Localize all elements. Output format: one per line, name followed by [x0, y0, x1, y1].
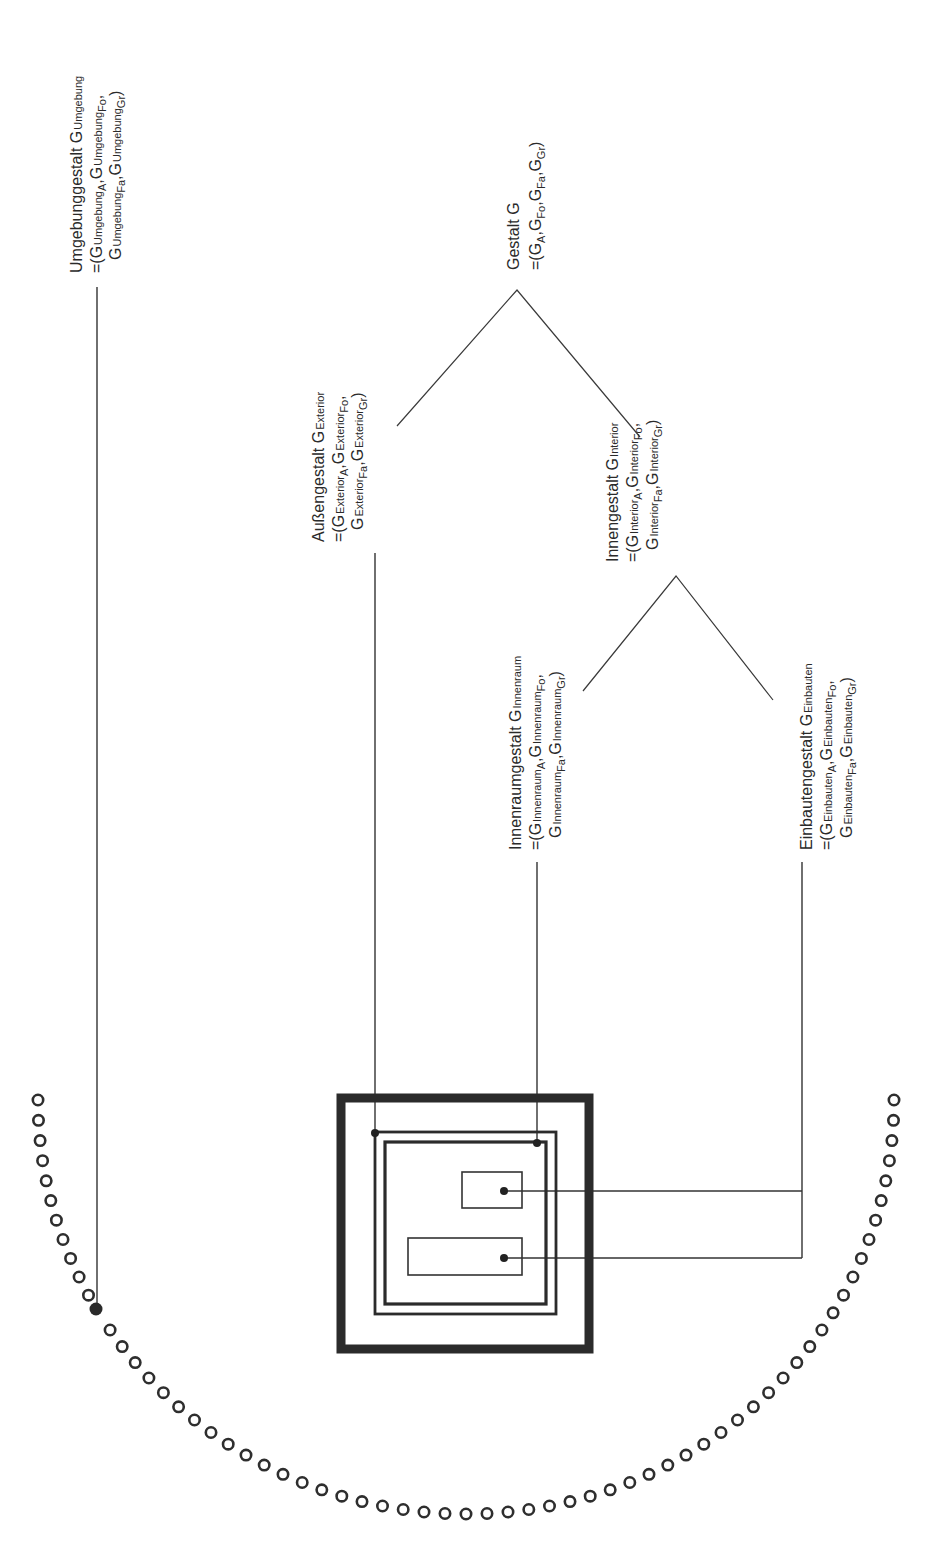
- exterior-title: Außengestalt GExterior: [310, 392, 327, 542]
- environment-ring-circle: [663, 1460, 673, 1470]
- interior-label: Innengestalt GInterior =(GInteriorA,GInt…: [604, 420, 664, 562]
- interior-formula-line2: GInteriorFa,GInteriorGr): [644, 420, 664, 550]
- environment-ring-circle: [884, 1156, 894, 1166]
- environment-ring-circle: [173, 1402, 183, 1412]
- einbauten-title: Einbautengestalt GEinbauten: [798, 663, 815, 850]
- gestalt-hierarchy-diagram: Umgebunggestalt GUmgebung =(GUmgebungA,G…: [0, 0, 932, 1562]
- environment-ring-circle: [144, 1373, 154, 1383]
- einbauten-formula-line1: =(GEinbautenA,GEinbautenFo,: [818, 680, 838, 850]
- einbauten-lower-anchor-dot: [500, 1254, 508, 1262]
- environment-ring-circle: [605, 1485, 615, 1495]
- umgebung-anchor-dot: [90, 1303, 103, 1316]
- environment-ring-circle: [74, 1272, 84, 1282]
- exterior-formula-line2: GExteriorFa,GExteriorGr): [349, 392, 369, 530]
- innenraum-boundary: [385, 1142, 546, 1304]
- environment-ring-circle: [419, 1507, 429, 1517]
- innenraum-anchor-dot: [533, 1139, 541, 1147]
- umgebung-formula-line1: =(GUmgebungA,GUmgebungFo,: [88, 95, 108, 273]
- innenraum-formula-line2: GInnenraumFa,GInnenraumGr): [547, 671, 567, 838]
- environment-ring-circle: [817, 1325, 827, 1335]
- interior-branch-lines: [583, 576, 773, 700]
- environment-ring-circle: [716, 1427, 726, 1437]
- environment-ring-circle: [699, 1439, 709, 1449]
- environment-ring-circle: [33, 1095, 43, 1105]
- umgebung-formula-line2: GUmgebungFa,GUmgebungGr): [107, 91, 127, 260]
- environment-ring-circle: [681, 1450, 691, 1460]
- gestalt-branch-lines: [397, 290, 640, 437]
- einbauten-label: Einbautengestalt GEinbauten =(GEinbauten…: [798, 663, 858, 850]
- interior-formula-line1: =(GInteriorA,GInteriorFo,: [624, 423, 644, 562]
- environment-ring-circle: [278, 1469, 288, 1479]
- environment-ring-circle: [158, 1388, 168, 1398]
- environment-ring-circle: [117, 1341, 127, 1351]
- umgebung-title: Umgebunggestalt GUmgebung: [68, 76, 85, 273]
- exterior-anchor-dot: [371, 1129, 379, 1137]
- environment-ring-circle: [482, 1508, 492, 1518]
- environment-ring-circle: [33, 1115, 43, 1125]
- environment-ring-circle: [398, 1504, 408, 1514]
- gestalt-title: Gestalt G: [505, 202, 522, 270]
- innenraum-formula-line1: =(GInnenraumA,GInnenraumFo,: [527, 674, 547, 850]
- environment-ring-circle: [357, 1496, 367, 1506]
- environment-ring-circle: [51, 1215, 61, 1225]
- environment-ring-circle: [317, 1485, 327, 1495]
- environment-ring-circle: [130, 1357, 140, 1367]
- environment-ring-circle: [732, 1415, 742, 1425]
- environment-ring-circle: [440, 1508, 450, 1518]
- environment-ring-circle: [887, 1135, 897, 1145]
- tree-connectors: [397, 290, 773, 700]
- gestalt-label: Gestalt G =(GA,GFo,GFa,GGr): [505, 142, 547, 270]
- environment-ring-circle: [189, 1415, 199, 1425]
- environment-ring-circle: [778, 1373, 788, 1383]
- environment-ring-circle: [848, 1272, 858, 1282]
- leader-lines: [97, 287, 802, 1308]
- environment-ring-circle: [37, 1156, 47, 1166]
- environment-ring-circle: [337, 1491, 347, 1501]
- environment-ring-circle: [585, 1491, 595, 1501]
- environment-ring-circle: [46, 1195, 56, 1205]
- innenraum-title: Innenraumgestalt GInnenraum: [507, 656, 524, 850]
- innenraum-label: Innenraumgestalt GInnenraum =(GInnenraum…: [507, 656, 567, 850]
- outer-building-frame: [341, 1098, 589, 1349]
- building-symbol: [341, 1098, 589, 1349]
- environment-ring-circle: [748, 1402, 758, 1412]
- environment-ring-circle: [206, 1427, 216, 1437]
- environment-ring-circle: [625, 1477, 635, 1487]
- diagram-svg: Umgebunggestalt GUmgebung =(GUmgebungA,G…: [0, 0, 932, 1562]
- environment-ring-circle: [856, 1253, 866, 1263]
- environment-ring-circle: [41, 1176, 51, 1186]
- umgebung-label: Umgebunggestalt GUmgebung =(GUmgebungA,G…: [68, 76, 127, 273]
- environment-ring-circle: [870, 1215, 880, 1225]
- gestalt-formula: =(GA,GFo,GFa,GGr): [527, 142, 547, 270]
- exterior-formula-line1: =(GExteriorA,GExteriorFo,: [330, 396, 350, 542]
- environment-ring-circle: [763, 1388, 773, 1398]
- environment-ring-circle: [876, 1195, 886, 1205]
- einbauten-small-rect: [462, 1172, 522, 1208]
- environment-ring-circle: [241, 1450, 251, 1460]
- environment-ring-circle: [35, 1135, 45, 1145]
- exterior-boundary-outer: [375, 1132, 556, 1314]
- environment-ring-circle: [805, 1341, 815, 1351]
- environment-ring-circle: [864, 1234, 874, 1244]
- environment-ring-circle: [503, 1507, 513, 1517]
- environment-ring-circle: [461, 1509, 471, 1519]
- environment-ring-circle: [881, 1176, 891, 1186]
- einbauten-upper-anchor-dot: [500, 1187, 508, 1195]
- exterior-label: Außengestalt GExterior =(GExteriorA,GExt…: [310, 392, 369, 542]
- environment-ring-circle: [83, 1290, 93, 1300]
- environment-ring-circle: [828, 1308, 838, 1318]
- environment-ring-circle: [105, 1325, 115, 1335]
- environment-ring-circle: [792, 1357, 802, 1367]
- environment-ring-circle: [888, 1115, 898, 1125]
- environment-ring-circle: [58, 1234, 68, 1244]
- environment-ring-circle: [297, 1477, 307, 1487]
- environment-ring-circle: [223, 1439, 233, 1449]
- environment-ring-circle: [377, 1501, 387, 1511]
- einbauten-formula-line2: GEinbautenFa,GEinbautenGr): [838, 677, 858, 838]
- environment-ring-circle: [65, 1253, 75, 1263]
- environment-ring-circle: [524, 1504, 534, 1514]
- environment-ring-circle: [644, 1469, 654, 1479]
- interior-title: Innengestalt GInterior: [604, 422, 621, 562]
- environment-ring-circle: [889, 1095, 899, 1105]
- environment-ring: [33, 1095, 899, 1519]
